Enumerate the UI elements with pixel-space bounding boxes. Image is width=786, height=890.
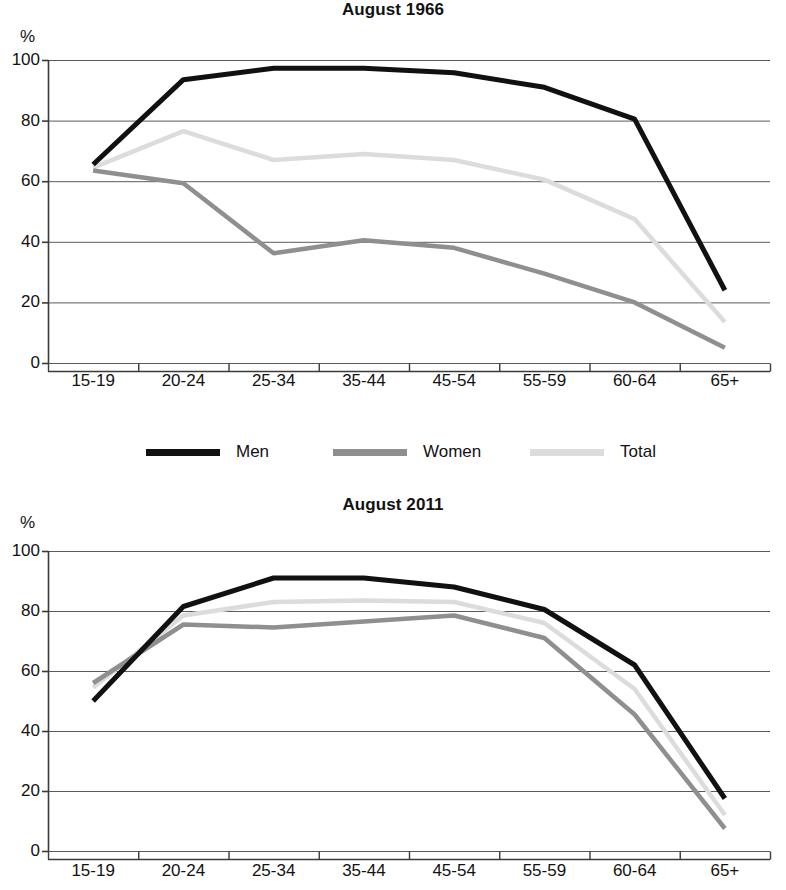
- legend-swatch-total-icon: [530, 449, 604, 456]
- legend-item-total: Total: [530, 437, 656, 467]
- x-tick-label: 55-59: [523, 371, 566, 391]
- y-axis-ticks-1966: 020406080100: [0, 60, 40, 363]
- x-tick-label: 65+: [710, 861, 739, 881]
- x-tick-label: 15-19: [71, 371, 114, 391]
- legend-label-women: Women: [423, 442, 481, 462]
- series-line-men: [93, 68, 725, 290]
- x-axis-ticks-2011: 15-1920-2425-3435-4445-5455-5960-6465+: [48, 861, 770, 887]
- legend-label-total: Total: [620, 442, 656, 462]
- y-tick-label: 80: [6, 602, 40, 619]
- y-tick-label: 20: [6, 293, 40, 310]
- chart-legend: Men Women Total: [0, 437, 786, 477]
- x-tick-label: 25-34: [252, 371, 295, 391]
- y-tick-label: 80: [6, 112, 40, 129]
- y-tick-label: 60: [6, 662, 40, 679]
- plot-area-1966: [48, 60, 770, 363]
- legend-item-women: Women: [333, 437, 481, 467]
- x-tick-label: 15-19: [71, 861, 114, 881]
- chart-panel-1966: August 1966 % 020406080100 15-1920-2425-…: [0, 0, 786, 410]
- x-tick-label: 55-59: [523, 861, 566, 881]
- plot-area-2011: [48, 551, 770, 851]
- y-tick-label: 40: [6, 233, 40, 250]
- chart-svg: [48, 551, 772, 861]
- y-tick-label: 20: [6, 782, 40, 799]
- y-tick-label: 40: [6, 722, 40, 739]
- x-tick-label: 25-34: [252, 861, 295, 881]
- series-line-women: [93, 171, 725, 348]
- x-tick-label: 60-64: [613, 861, 656, 881]
- y-tick-label: 0: [6, 842, 40, 859]
- chart-title-1966: August 1966: [0, 0, 786, 20]
- x-tick-label: 20-24: [162, 371, 205, 391]
- legend-item-men: Men: [146, 437, 269, 467]
- legend-swatch-women-icon: [333, 449, 407, 456]
- chart-title-2011: August 2011: [0, 495, 786, 515]
- y-axis-ticks-2011: 020406080100: [0, 551, 40, 851]
- y-tick-label: 100: [6, 542, 40, 559]
- x-tick-label: 20-24: [162, 861, 205, 881]
- x-tick-label: 60-64: [613, 371, 656, 391]
- legend-swatch-men-icon: [146, 449, 220, 456]
- chart-svg: [48, 60, 772, 373]
- y-axis-unit-1966: %: [20, 27, 35, 47]
- x-axis-ticks-1966: 15-1920-2425-3435-4445-5455-5960-6465+: [48, 371, 770, 397]
- x-tick-label: 45-54: [432, 861, 475, 881]
- y-tick-label: 60: [6, 172, 40, 189]
- legend-label-men: Men: [236, 442, 269, 462]
- series-line-women: [93, 616, 725, 829]
- y-axis-unit-2011: %: [20, 513, 35, 533]
- x-tick-label: 65+: [710, 371, 739, 391]
- series-line-total: [93, 131, 725, 322]
- x-tick-label: 35-44: [342, 861, 385, 881]
- x-tick-label: 35-44: [342, 371, 385, 391]
- y-tick-label: 100: [6, 51, 40, 68]
- x-tick-label: 45-54: [432, 371, 475, 391]
- y-tick-label: 0: [6, 354, 40, 371]
- figure-labour-force-participation: August 1966 % 020406080100 15-1920-2425-…: [0, 0, 786, 890]
